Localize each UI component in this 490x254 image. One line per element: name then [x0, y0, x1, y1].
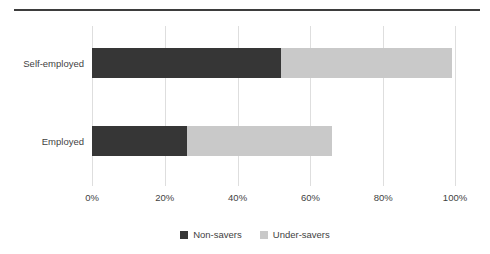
legend-swatch-icon: [260, 231, 268, 239]
bar-segment-under-savers[interactable]: [281, 48, 452, 78]
xtick-label-20: 20%: [135, 193, 195, 203]
bar-row-self-employed[interactable]: [92, 48, 452, 78]
legend-swatch-icon: [180, 231, 188, 239]
plot-area: [92, 26, 456, 186]
legend-label: Non-savers: [193, 229, 242, 240]
xtick-label-80: 80%: [353, 193, 413, 203]
xtick-label-40: 40%: [208, 193, 268, 203]
legend-label: Under-savers: [273, 229, 330, 240]
gridline-100: [455, 26, 456, 186]
bar-row-employed[interactable]: [92, 126, 332, 156]
category-label-employed: Employed: [0, 137, 84, 147]
xtick-label-60: 60%: [280, 193, 340, 203]
legend-item-non-savers[interactable]: Non-savers: [180, 229, 242, 240]
xtick-label-0: 0%: [62, 193, 122, 203]
xtick-label-100: 100%: [425, 193, 485, 203]
category-label-self-employed: Self-employed: [0, 59, 84, 69]
bar-segment-non-savers[interactable]: [92, 126, 187, 156]
stacked-bar-chart-figure: Self-employed Employed 0% 20% 40% 60% 80…: [0, 0, 490, 254]
top-divider-rule: [14, 9, 480, 11]
bar-segment-under-savers[interactable]: [187, 126, 333, 156]
legend-item-under-savers[interactable]: Under-savers: [260, 229, 330, 240]
bar-segment-non-savers[interactable]: [92, 48, 281, 78]
chart-legend: Non-savers Under-savers: [0, 229, 490, 240]
